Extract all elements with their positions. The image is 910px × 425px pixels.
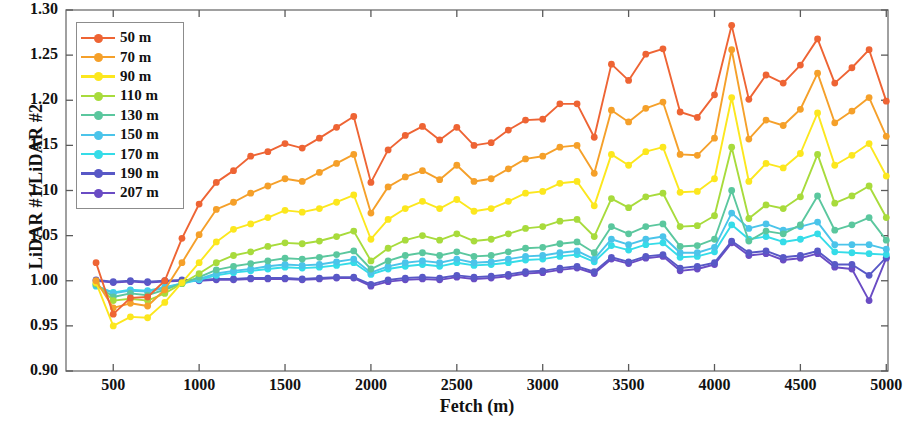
legend-label: 50 m [115, 29, 151, 46]
legend-marker-icon [94, 111, 103, 120]
legend-marker-icon [94, 131, 103, 140]
chart-figure: LiDAR #1/LiDAR #2 Fetch (m) 0.900.951.00… [0, 0, 910, 425]
legend-item-130-m: 130 m [81, 106, 177, 125]
y-tick-label: 1.00 [4, 271, 58, 289]
x-tick-label: 2000 [336, 376, 406, 394]
legend-item-70-m: 70 m [81, 47, 177, 66]
legend-swatch-icon [81, 50, 115, 64]
legend-item-150-m: 150 m [81, 125, 177, 144]
legend-label: 150 m [115, 126, 159, 143]
x-tick-label: 1000 [164, 376, 234, 394]
y-tick-label: 1.05 [4, 226, 58, 244]
y-tick-label: 0.95 [4, 316, 58, 334]
x-tick-label: 500 [78, 376, 148, 394]
legend-swatch-icon [81, 108, 115, 122]
x-axis-label: Fetch (m) [66, 396, 888, 417]
legend-label: 130 m [115, 107, 159, 124]
x-tick-label: 2500 [422, 376, 492, 394]
legend-label: 70 m [115, 49, 151, 66]
legend-item-190-m: 190 m [81, 164, 177, 183]
y-tick-label: 1.30 [4, 0, 58, 18]
legend-label: 170 m [115, 146, 159, 163]
legend-item-50-m: 50 m [81, 28, 177, 47]
y-tick-label: 1.20 [4, 90, 58, 108]
legend-swatch-icon [81, 147, 115, 161]
legend-item-90-m: 90 m [81, 67, 177, 86]
legend-swatch-icon [81, 69, 115, 83]
x-tick-label: 5000 [851, 376, 910, 394]
x-tick-label: 3500 [594, 376, 664, 394]
legend-marker-icon [94, 189, 103, 198]
chart-legend: 50 m70 m90 m110 m130 m150 m170 m190 m207… [76, 22, 184, 209]
legend-swatch-icon [81, 128, 115, 142]
legend-marker-icon [94, 53, 103, 62]
legend-item-110-m: 110 m [81, 86, 177, 105]
x-tick-label: 4500 [765, 376, 835, 394]
legend-marker-icon [94, 92, 103, 101]
y-tick-label: 0.90 [4, 361, 58, 379]
y-tick-label: 1.15 [4, 135, 58, 153]
axes-frame [66, 10, 888, 371]
legend-label: 190 m [115, 165, 159, 182]
legend-item-207-m: 207 m [81, 183, 177, 202]
x-tick-label: 3000 [508, 376, 578, 394]
y-tick-label: 1.10 [4, 181, 58, 199]
x-tick-label: 4000 [679, 376, 749, 394]
legend-label: 207 m [115, 184, 159, 201]
x-tick-label: 1500 [250, 376, 320, 394]
legend-label: 110 m [115, 87, 158, 104]
series-90-m [93, 94, 890, 329]
legend-item-170-m: 170 m [81, 144, 177, 163]
legend-swatch-icon [81, 89, 115, 103]
series-130-m [93, 187, 890, 300]
legend-swatch-icon [81, 31, 115, 45]
legend-marker-icon [94, 169, 103, 178]
legend-marker-icon [94, 150, 103, 159]
legend-swatch-icon [81, 186, 115, 200]
legend-label: 90 m [115, 68, 151, 85]
legend-swatch-icon [81, 166, 115, 180]
legend-marker-icon [94, 72, 103, 81]
y-tick-label: 1.25 [4, 45, 58, 63]
legend-marker-icon [94, 34, 103, 43]
